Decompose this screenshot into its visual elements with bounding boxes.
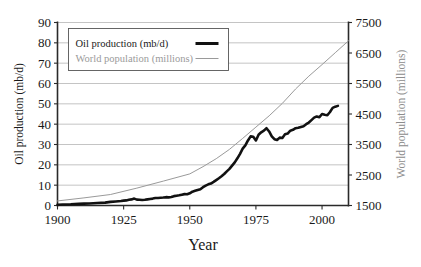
x-axis-tick-label: 1975 bbox=[243, 212, 269, 227]
left-axis-tick-label: 20 bbox=[38, 157, 51, 172]
legend-label-oil-production: Oil production (mb/d) bbox=[76, 38, 169, 50]
right-axis-tick-label: 3500 bbox=[356, 137, 382, 152]
left-axis-tick-label: 10 bbox=[38, 178, 51, 193]
x-axis-tick-label: 1900 bbox=[45, 212, 71, 227]
legend-label-world-population: World population (millions) bbox=[76, 53, 194, 65]
left-axis-tick-label: 80 bbox=[38, 35, 51, 50]
left-axis-title: Oil production (mb/d) bbox=[13, 63, 26, 165]
left-axis-tick-label: 50 bbox=[38, 96, 51, 111]
x-axis-title: Year bbox=[188, 236, 218, 253]
x-axis-tick-label: 1950 bbox=[177, 212, 203, 227]
left-axis-tick-label: 70 bbox=[38, 56, 51, 71]
right-axis-tick-label: 7500 bbox=[356, 15, 382, 30]
left-axis-tick-label: 60 bbox=[38, 76, 51, 91]
left-axis-tick-label: 40 bbox=[38, 117, 51, 132]
chart-container: 0102030405060708090 15002500350045005500… bbox=[0, 0, 421, 267]
right-axis-tick-label: 5500 bbox=[356, 76, 382, 91]
right-axis-title: World population (millions) bbox=[395, 49, 408, 178]
right-axis-tick-label: 1500 bbox=[356, 198, 382, 213]
x-axis-tick-label: 1925 bbox=[111, 212, 137, 227]
left-axis-tick-label: 30 bbox=[38, 137, 51, 152]
left-axis-tick-label: 90 bbox=[38, 15, 51, 30]
chart-legend: Oil production (mb/d)World population (m… bbox=[69, 29, 229, 71]
right-axis-tick-label: 4500 bbox=[356, 107, 382, 122]
right-axis-tick-label: 6500 bbox=[356, 46, 382, 61]
oil-production-world-population-chart: 0102030405060708090 15002500350045005500… bbox=[0, 0, 421, 267]
legend-box bbox=[69, 29, 229, 71]
x-axis-tick-label: 2000 bbox=[309, 212, 335, 227]
right-axis-tick-label: 2500 bbox=[356, 168, 382, 183]
